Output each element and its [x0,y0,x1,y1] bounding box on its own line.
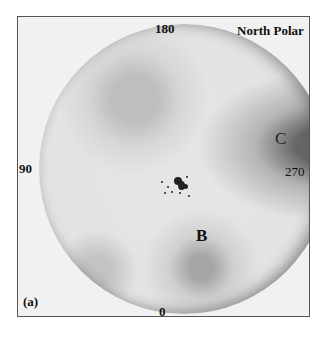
angle-label-90: 90 [19,162,32,175]
center-intensity-spot [158,165,198,203]
pole-figure-frame: 180 North Polar 90 270 0 C B (a) [17,16,310,317]
region-label-c: C [275,130,286,147]
angle-label-180: 180 [155,22,175,35]
panel-label: (a) [23,295,38,308]
figure-title: North Polar [237,24,304,37]
angle-label-0: 0 [159,305,166,317]
angle-label-270: 270 [285,165,305,178]
region-label-b: B [196,227,207,244]
